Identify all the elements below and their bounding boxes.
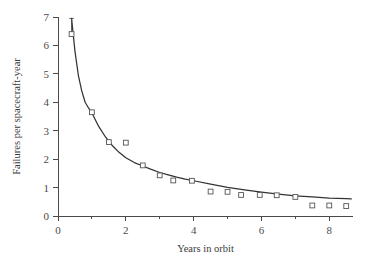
y-axis-tick-label: 7 [44,11,50,23]
data-point-marker [190,178,195,183]
data-point-marker [239,193,244,198]
data-point-marker [90,110,95,115]
y-axis-tick-label: 1 [44,182,50,194]
y-axis-tick-label: 4 [44,96,50,108]
x-axis-tick-label: 8 [327,224,333,236]
x-axis-tick-label: 6 [259,224,265,236]
y-axis-tick-label: 6 [44,39,50,51]
x-axis-title: Years in orbit [177,243,234,254]
y-axis-title: Failures per spacecraft-year [11,58,22,175]
data-point-marker [257,193,262,198]
chart-figure: 0246801234567 Years in orbitFailures per… [0,0,371,268]
data-point-marker [225,189,230,194]
data-point-marker [157,173,162,178]
x-axis-tick-label: 4 [191,224,197,236]
data-point-marker [69,32,74,37]
x-axis-tick-label: 2 [123,224,129,236]
data-point-marker [106,140,111,145]
y-axis-tick-label: 2 [44,153,50,165]
y-axis-tick-label: 5 [44,68,50,80]
y-axis-tick-label: 3 [44,125,50,137]
data-point-marker [293,195,298,200]
data-point-marker [344,204,349,209]
data-point-marker [327,203,332,208]
x-axis-tick-label: 0 [55,224,61,236]
scatter-plot-canvas: 0246801234567 Years in orbitFailures per… [0,0,371,268]
data-point-marker [171,178,176,183]
data-point-marker [208,189,213,194]
data-point-marker [310,203,315,208]
data-point-marker [123,140,128,145]
data-point-marker [274,193,279,198]
data-point-marker [140,163,145,168]
y-axis-tick-label: 0 [44,210,50,222]
